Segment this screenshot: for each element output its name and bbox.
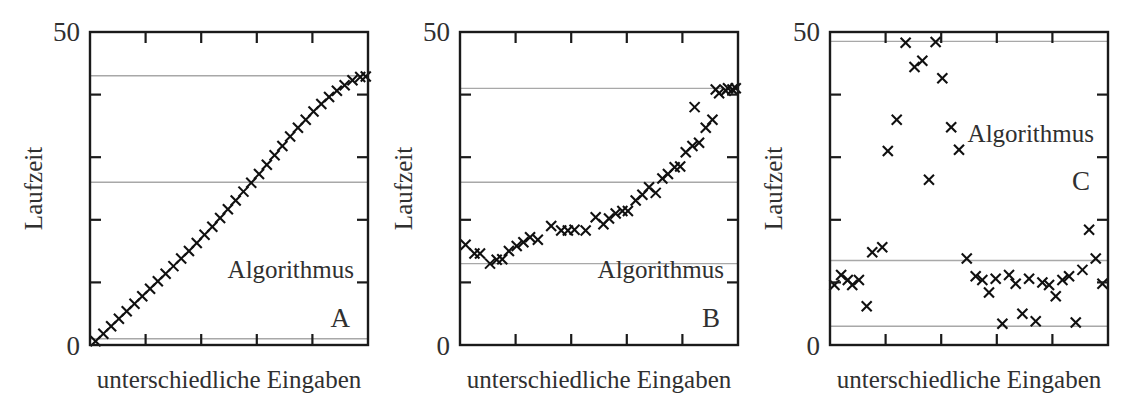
data-point-marker (711, 85, 721, 95)
plot-frame (830, 32, 1108, 345)
data-point-marker (690, 102, 700, 112)
data-point-marker (877, 242, 887, 252)
y-axis-ticks (460, 95, 738, 283)
data-point-marker (1024, 274, 1034, 284)
data-point-marker (997, 319, 1007, 329)
x-axis-ticks (886, 32, 1053, 345)
data-point-marker (991, 274, 1001, 284)
plot-annotation-algorithmus: Algorithmus (228, 256, 354, 283)
data-point-marker (623, 206, 633, 216)
data-point-marker (525, 232, 535, 242)
panel-letter-b: B (702, 303, 720, 333)
data-point-marker (910, 62, 920, 72)
data-point-marker (1097, 279, 1107, 289)
data-point-marker (1017, 309, 1027, 319)
plot-frame (90, 32, 368, 345)
x-axis-title: unterschiedliche Eingaben (837, 366, 1102, 393)
data-point-marker (254, 169, 264, 179)
figure-three-scatter-panels: 500Laufzeitunterschiedliche EingabenAlgo… (0, 0, 1121, 413)
data-point-marker (883, 146, 893, 156)
data-point-marker (917, 56, 927, 66)
panel-letter-a: A (331, 303, 351, 333)
data-point-marker (277, 141, 287, 151)
y-tick-label-min: 0 (437, 331, 451, 361)
data-point-marker (461, 240, 471, 250)
y-axis-title: Laufzeit (20, 147, 47, 230)
y-tick-label-max: 50 (53, 17, 80, 47)
data-point-marker (1091, 254, 1101, 264)
data-point-marker (946, 122, 956, 132)
data-point-marker (546, 221, 556, 231)
data-point-marker (862, 301, 872, 311)
data-point-marker (651, 188, 661, 198)
y-tick-label-min: 0 (807, 331, 821, 361)
data-point-marker (707, 115, 717, 125)
data-point-marker (1077, 265, 1087, 275)
y-axis-title: Laufzeit (390, 147, 417, 230)
data-points (829, 37, 1107, 329)
data-point-marker (984, 287, 994, 297)
chart-panel-c: 500Laufzeitunterschiedliche EingabenAlgo… (740, 0, 1113, 413)
data-point-marker (892, 115, 902, 125)
data-point-marker (924, 175, 934, 185)
x-axis-title: unterschiedliche Eingaben (97, 366, 362, 393)
y-tick-label-max: 50 (423, 17, 450, 47)
data-point-marker (1084, 225, 1094, 235)
data-point-marker (847, 280, 857, 290)
y-tick-label-min: 0 (67, 331, 81, 361)
data-point-marker (867, 247, 877, 257)
gridlines (461, 88, 737, 263)
data-points (461, 83, 741, 268)
data-points (91, 71, 371, 346)
data-point-marker (475, 249, 485, 259)
data-point-marker (324, 92, 334, 102)
plot-annotation-algorithmus: Algorithmus (968, 120, 1094, 147)
data-point-marker (262, 160, 272, 170)
data-point-marker (1004, 270, 1014, 280)
plot-frame (460, 32, 738, 345)
data-point-marker (854, 275, 864, 285)
data-point-marker (533, 235, 543, 245)
x-axis-ticks (146, 32, 313, 345)
y-tick-label-max: 50 (793, 17, 820, 47)
data-point-marker (270, 150, 280, 160)
data-point-marker (1031, 316, 1041, 326)
panel-letter-c: C (1072, 166, 1090, 196)
data-point-marker (962, 254, 972, 264)
chart-panel-b: 500Laufzeitunterschiedliche EingabenAlgo… (370, 0, 743, 413)
data-point-marker (901, 38, 911, 48)
data-point-marker (1051, 291, 1061, 301)
y-axis-ticks (90, 95, 368, 283)
data-point-marker (836, 270, 846, 280)
data-point-marker (954, 145, 964, 155)
x-axis-ticks (516, 32, 683, 345)
chart-panel-a: 500Laufzeitunterschiedliche EingabenAlgo… (0, 0, 373, 413)
y-axis-title: Laufzeit (760, 147, 787, 230)
data-point-marker (604, 214, 614, 224)
data-point-marker (581, 225, 591, 235)
x-axis-title: unterschiedliche Eingaben (467, 366, 732, 393)
data-point-marker (937, 73, 947, 83)
data-point-marker (1011, 279, 1021, 289)
plot-annotation-algorithmus: Algorithmus (598, 256, 724, 283)
data-point-marker (570, 225, 580, 235)
